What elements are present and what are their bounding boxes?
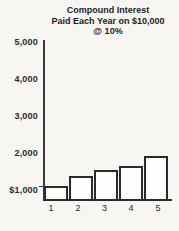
figure: Compound Interest Paid Each Year on $10,… xyxy=(0,0,179,231)
x-tick-label-2: 2 xyxy=(70,203,86,213)
x-tick-label-1: 1 xyxy=(43,203,59,213)
y-tick-label-1000: $1,000 xyxy=(2,185,38,195)
chart-title-line-2: Paid Each Year on $10,000 xyxy=(42,16,174,27)
bar-year-4 xyxy=(119,166,143,201)
x-tick-label-4: 4 xyxy=(123,203,139,213)
y-tick-label-4000: 4,000 xyxy=(2,74,38,84)
y-tick-label-3000: 3,000 xyxy=(2,111,38,121)
y-tick-label-5000: 5,000 xyxy=(2,37,38,47)
chart-title-line-1: Compound Interest xyxy=(42,5,174,16)
x-tick-label-3: 3 xyxy=(97,203,113,213)
y-axis-line xyxy=(43,40,45,201)
bar-year-2 xyxy=(69,176,93,201)
x-tick-label-5: 5 xyxy=(150,203,166,213)
bar-year-5 xyxy=(144,156,168,201)
chart-title: Compound Interest Paid Each Year on $10,… xyxy=(42,5,174,37)
bar-year-3 xyxy=(94,170,118,201)
y-tick-label-2000: 2,000 xyxy=(2,148,38,158)
bar-year-1 xyxy=(44,186,68,201)
chart-title-line-3: @ 10% xyxy=(42,26,174,37)
